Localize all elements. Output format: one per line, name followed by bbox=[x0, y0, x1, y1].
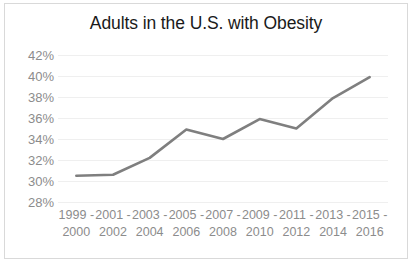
y-axis-tick-label: 42% bbox=[8, 48, 54, 63]
x-axis-tick-label: 2001 -2002 bbox=[95, 207, 132, 251]
y-axis: 42%40%38%36%34%32%30%28% bbox=[8, 55, 54, 202]
y-axis-tick-label: 28% bbox=[8, 195, 54, 210]
y-axis-tick-label: 30% bbox=[8, 174, 54, 189]
y-axis-tick-label: 40% bbox=[8, 69, 54, 84]
x-axis-tick-label: 2003 -2004 bbox=[131, 207, 168, 251]
plot-area bbox=[58, 55, 388, 202]
x-axis-tick-label: 2009 -2010 bbox=[241, 207, 278, 251]
y-axis-tick-label: 34% bbox=[8, 132, 54, 147]
line-series-svg bbox=[58, 55, 388, 202]
x-axis: 1999 -20002001 -20022003 -20042005 -2006… bbox=[58, 207, 388, 251]
obesity-line-series bbox=[76, 77, 369, 176]
x-axis-tick-label: 2011 -2012 bbox=[278, 207, 315, 251]
chart-title: Adults in the U.S. with Obesity bbox=[0, 13, 412, 34]
x-axis-tick-label: 2005 -2006 bbox=[168, 207, 205, 251]
y-axis-tick-label: 32% bbox=[8, 153, 54, 168]
gridline bbox=[58, 202, 388, 203]
x-axis-tick-label: 1999 -2000 bbox=[58, 207, 95, 251]
x-axis-tick-label: 2007 -2008 bbox=[205, 207, 242, 251]
y-axis-tick-label: 36% bbox=[8, 111, 54, 126]
x-axis-tick-label: 2013 -2014 bbox=[315, 207, 352, 251]
y-axis-tick-label: 38% bbox=[8, 90, 54, 105]
x-axis-tick-label: 2015 -2016 bbox=[351, 207, 388, 251]
chart-container: Adults in the U.S. with Obesity 42%40%38… bbox=[0, 0, 412, 263]
